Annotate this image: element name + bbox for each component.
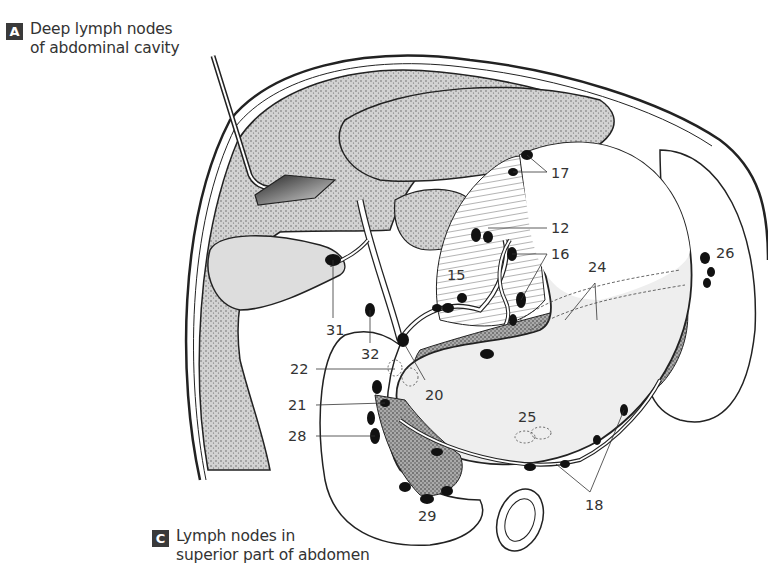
label-22: 22 [290,361,308,377]
label-21: 21 [288,397,306,413]
label-17: 17 [551,165,569,181]
caption-superior-abdomen: C Lymph nodes in superior part of abdome… [152,527,370,565]
label-32: 32 [361,346,379,362]
label-12: 12 [551,220,569,236]
caption-badge: C [152,530,169,547]
label-24: 24 [588,259,606,275]
label-28: 28 [288,428,306,444]
label-31: 31 [326,322,344,338]
label-29: 29 [418,508,436,524]
label-25: 25 [518,409,536,425]
label-16: 16 [551,246,569,262]
label-15: 15 [447,267,465,283]
label-18: 18 [585,497,603,513]
gallbladder [208,236,345,310]
caption-text: Lymph nodes in superior part of abdomen [176,527,370,565]
anatomy-illustration [0,0,768,572]
label-26: 26 [716,245,734,261]
label-20: 20 [425,387,443,403]
